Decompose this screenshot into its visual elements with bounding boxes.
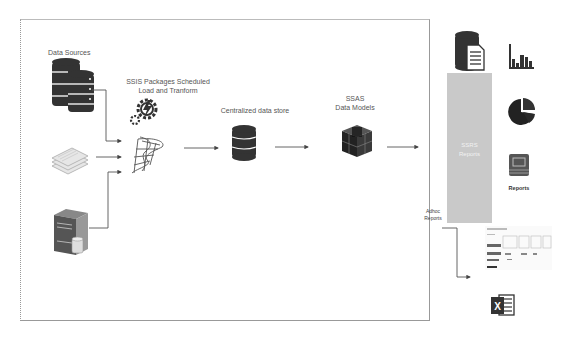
ssrs-label-line2: Reports: [447, 150, 492, 159]
bar-chart-icon: [507, 43, 535, 71]
ssrs-reports-label: SSRS Reports: [447, 141, 492, 159]
ssrs-label-line1: SSRS: [447, 141, 492, 150]
reports-icon-label: Reports: [503, 184, 535, 193]
dashboard-thumbnail-icon: [485, 226, 552, 270]
report-book-icon: [507, 153, 531, 177]
svg-text:X: X: [494, 301, 501, 312]
adhoc-reports-label: Adhoc Reports: [420, 208, 446, 222]
adhoc-label-line1: Adhoc: [420, 208, 446, 215]
ssrs-reports-box: SSRS Reports: [447, 73, 492, 223]
adhoc-label-line2: Reports: [420, 215, 446, 222]
ssrs-db-report-icon: [453, 30, 487, 72]
pie-chart-icon: [507, 97, 537, 127]
excel-icon: X: [490, 293, 516, 317]
